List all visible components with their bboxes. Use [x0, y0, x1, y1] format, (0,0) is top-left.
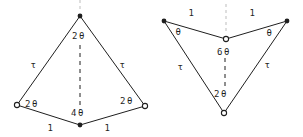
edge-kite-right-bottom — [80, 106, 145, 125]
label-dart-angle-4: 6θ — [217, 47, 231, 57]
label-kite-side-7: 1 — [105, 123, 112, 133]
label-kite-angle-3: 2θ — [25, 99, 39, 109]
label-kite-side-6: 1 — [48, 123, 55, 133]
label-kite-angle-5: 4θ — [71, 108, 85, 118]
label-dart-angle-2: θ — [176, 27, 183, 37]
edge-kite-apex-left — [17, 16, 80, 105]
edge-dart-top-right-bottom — [224, 21, 287, 113]
label-dart-angle-3: θ — [267, 28, 274, 38]
label-dart-side-1: 1 — [250, 8, 257, 18]
label-dart-side-0: 1 — [189, 8, 196, 18]
diagram-svg: 2θττ2θ2θ4θ1111θθ6θττ2θ — [0, 0, 303, 137]
vertex-filled-kite-apex — [78, 14, 83, 19]
label-dart-side-5: τ — [178, 62, 185, 72]
vertex-open-dart-middle — [223, 36, 228, 41]
label-dart-angle-7: 2θ — [214, 89, 228, 99]
label-dart-side-6: τ — [265, 60, 272, 70]
vertex-open-kite-right — [142, 103, 147, 108]
label-kite-angle-4: 2θ — [120, 96, 134, 106]
label-kite-angle-0: 2θ — [72, 31, 86, 41]
vertex-filled-dart-top-left — [162, 19, 167, 24]
vertex-open-dart-bottom — [221, 110, 226, 115]
edge-dart-top-right-middle — [226, 21, 287, 39]
edge-dart-top-left-middle — [164, 21, 226, 39]
vertex-open-kite-left — [14, 102, 19, 107]
vertex-filled-dart-top-right — [285, 19, 290, 24]
edge-kite-apex-right — [80, 16, 145, 106]
diagram-canvas: 2θττ2θ2θ4θ1111θθ6θττ2θ — [0, 0, 303, 137]
vertex-filled-kite-bottom — [78, 123, 83, 128]
label-kite-side-2: τ — [120, 60, 127, 70]
label-kite-side-1: τ — [31, 60, 38, 70]
edge-dart-top-left-bottom — [164, 21, 224, 113]
